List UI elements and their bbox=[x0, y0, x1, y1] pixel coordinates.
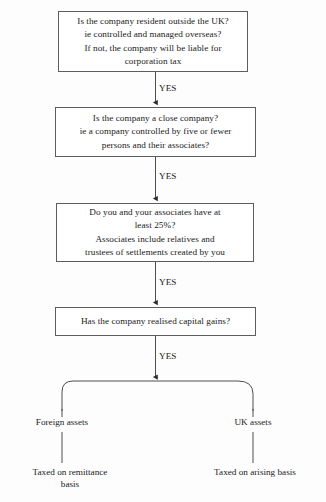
split-bracket bbox=[62, 381, 253, 411]
outcome-label-arising-basis: Taxed on arising basis bbox=[190, 466, 320, 478]
decision-box-residency-text: Is the company resident outside the UK? … bbox=[77, 15, 228, 67]
branch-label-foreign-assets: Foreign assets bbox=[12, 416, 112, 428]
decision-box-associates-text: Do you and your associates have at least… bbox=[85, 206, 225, 258]
edge-label-yes-residency: YES bbox=[159, 83, 176, 94]
decision-box-capital-gains-text: Has the company realised capital gains? bbox=[81, 315, 230, 328]
edge-label-yes-close-company: YES bbox=[159, 171, 176, 182]
edge-label-yes-capital-gains: YES bbox=[159, 351, 176, 362]
decision-box-associates: Do you and your associates have at least… bbox=[56, 203, 254, 262]
outcome-label-remittance-basis: Taxed on remittance basis bbox=[8, 466, 132, 491]
flowchart-diagram: Is the company resident outside the UK? … bbox=[0, 0, 326, 502]
decision-box-capital-gains: Has the company realised capital gains? bbox=[55, 307, 256, 336]
edge-label-yes-associates: YES bbox=[159, 277, 176, 288]
decision-box-close-company: Is the company a close company? ie a com… bbox=[55, 107, 256, 157]
decision-box-residency: Is the company resident outside the UK? … bbox=[58, 11, 248, 72]
branch-label-uk-assets: UK assets bbox=[203, 416, 303, 428]
decision-box-close-company-text: Is the company a close company? ie a com… bbox=[80, 112, 232, 151]
